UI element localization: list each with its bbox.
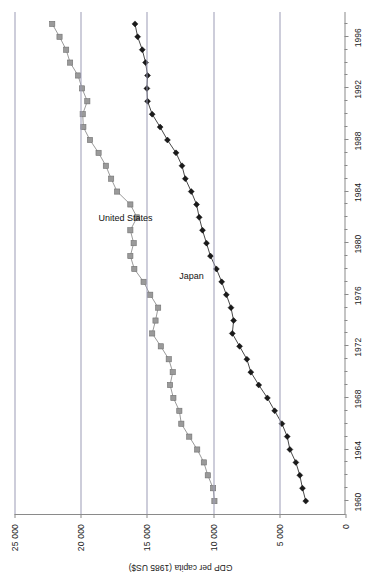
x-axis-tick-minor: [344, 358, 347, 359]
data-point: [188, 189, 194, 195]
x-axis-tick-minor: [344, 268, 347, 269]
x-axis-tick-minor: [344, 178, 347, 179]
rotated-figure-wrapper: GDP per capita (1985 US$) 05 00010 00015…: [0, 0, 377, 584]
x-axis-tick-minor: [344, 255, 347, 256]
x-axis-tick-major: [344, 449, 348, 450]
x-axis-tick-label: 1984: [352, 183, 362, 202]
x-axis-tick-label: 1972: [352, 338, 362, 357]
x-axis-tick-minor: [344, 332, 347, 333]
y-axis-tick-label: 10 000: [208, 524, 218, 584]
plot-area: [14, 12, 345, 515]
x-axis-tick-minor: [344, 410, 347, 411]
data-point: [203, 240, 209, 246]
data-point: [207, 253, 213, 259]
chart-figure: GDP per capita (1985 US$) 05 00010 00015…: [0, 0, 377, 584]
x-axis-tick-major: [344, 87, 348, 88]
data-point: [158, 344, 163, 349]
data-point: [114, 189, 119, 194]
data-point: [139, 47, 145, 53]
gridline: [279, 12, 280, 514]
x-axis-tick-minor: [344, 126, 347, 127]
data-point: [173, 150, 179, 156]
gridline: [14, 12, 15, 514]
data-point: [75, 73, 80, 78]
data-point: [230, 318, 236, 324]
x-axis-tick-minor: [344, 229, 347, 230]
x-axis-tick-minor: [344, 100, 347, 101]
data-point: [286, 447, 292, 453]
data-point: [87, 137, 92, 142]
x-axis-tick-label: 1964: [352, 441, 362, 460]
gridline: [213, 12, 214, 514]
data-point: [167, 382, 172, 387]
data-point: [205, 473, 210, 478]
x-axis-tick-minor: [344, 436, 347, 437]
x-axis-tick-minor: [344, 461, 347, 462]
x-axis-tick-minor: [344, 75, 347, 76]
data-point: [127, 228, 132, 233]
y-axis-tick: [279, 514, 280, 518]
x-axis-tick-label: 1960: [352, 493, 362, 512]
data-point: [299, 485, 305, 491]
y-axis-tick: [213, 514, 214, 518]
data-point: [95, 150, 100, 155]
x-axis-tick-minor: [344, 474, 347, 475]
data-point: [223, 292, 229, 298]
x-axis-tick-minor: [344, 320, 347, 321]
data-point: [149, 331, 154, 336]
x-axis-tick-minor: [344, 113, 347, 114]
gridline: [146, 12, 147, 514]
x-axis-tick-minor: [344, 216, 347, 217]
x-axis-tick-major: [344, 139, 348, 140]
x-axis-tick-minor: [344, 281, 347, 282]
x-axis-tick-label: 1996: [352, 28, 362, 47]
data-point: [302, 498, 308, 504]
y-axis-tick-label: 15 000: [141, 524, 151, 584]
x-axis-tick-major: [344, 345, 348, 346]
y-axis-tick-label: 0: [340, 524, 350, 584]
x-axis-tick-label: 1968: [352, 389, 362, 408]
x-axis-tick-minor: [344, 371, 347, 372]
x-axis-tick-label: 1976: [352, 286, 362, 305]
data-point: [176, 408, 181, 413]
x-axis-tick-minor: [344, 487, 347, 488]
y-axis-tick-label: 25 000: [9, 524, 19, 584]
data-point: [152, 318, 157, 323]
y-axis-tick: [14, 514, 15, 518]
x-axis-tick-major: [344, 191, 348, 192]
data-point: [199, 227, 205, 233]
data-point: [178, 163, 184, 169]
data-point: [182, 176, 188, 182]
y-axis-tick-label: 20 000: [75, 524, 85, 584]
data-point: [103, 163, 108, 168]
data-point: [194, 447, 199, 452]
data-point: [186, 434, 191, 439]
data-point: [155, 305, 160, 310]
series-line-united-states: [52, 24, 214, 501]
data-point: [201, 460, 206, 465]
x-axis-tick-minor: [344, 23, 347, 24]
data-point: [131, 21, 137, 27]
data-point: [227, 305, 233, 311]
data-point: [170, 395, 175, 400]
x-axis-tick-minor: [344, 423, 347, 424]
data-point: [140, 279, 145, 284]
data-point: [49, 21, 54, 26]
y-axis-tick-label: 5 000: [274, 524, 284, 584]
x-axis-tick-major: [344, 397, 348, 398]
data-point: [196, 214, 202, 220]
y-axis-tick: [345, 514, 346, 518]
x-axis-tick-label: 1980: [352, 235, 362, 254]
series-svg: [14, 11, 345, 514]
x-axis-tick-minor: [344, 203, 347, 204]
x-axis-tick-minor: [344, 152, 347, 153]
x-axis-tick-minor: [344, 62, 347, 63]
data-point: [108, 176, 113, 181]
x-axis-tick-minor: [344, 384, 347, 385]
data-point: [127, 202, 132, 207]
x-axis-tick-major: [344, 242, 348, 243]
y-axis-tick: [146, 514, 147, 518]
data-point: [243, 356, 249, 362]
data-point: [131, 241, 136, 246]
x-axis-tick-minor: [344, 165, 347, 166]
